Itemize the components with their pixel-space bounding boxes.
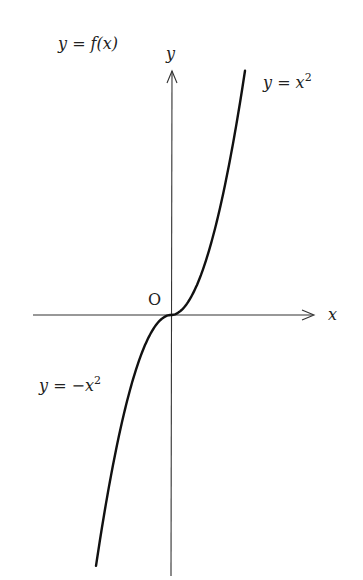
function-title: y = f(x) bbox=[58, 36, 118, 52]
exponent: 2 bbox=[305, 71, 312, 84]
x-axis-label: x bbox=[328, 307, 337, 323]
y-axis bbox=[167, 71, 177, 576]
curve-f bbox=[96, 71, 245, 566]
curve-label-negative: y = −x2 bbox=[39, 375, 101, 394]
y-axis-label: y bbox=[166, 46, 175, 62]
exponent: 2 bbox=[94, 374, 101, 387]
origin-label: O bbox=[148, 292, 161, 308]
curve-label-negative-text: y = −x bbox=[39, 376, 94, 395]
curve-label-positive: y = x2 bbox=[263, 72, 312, 91]
curve-label-positive-text: y = x bbox=[263, 73, 305, 92]
